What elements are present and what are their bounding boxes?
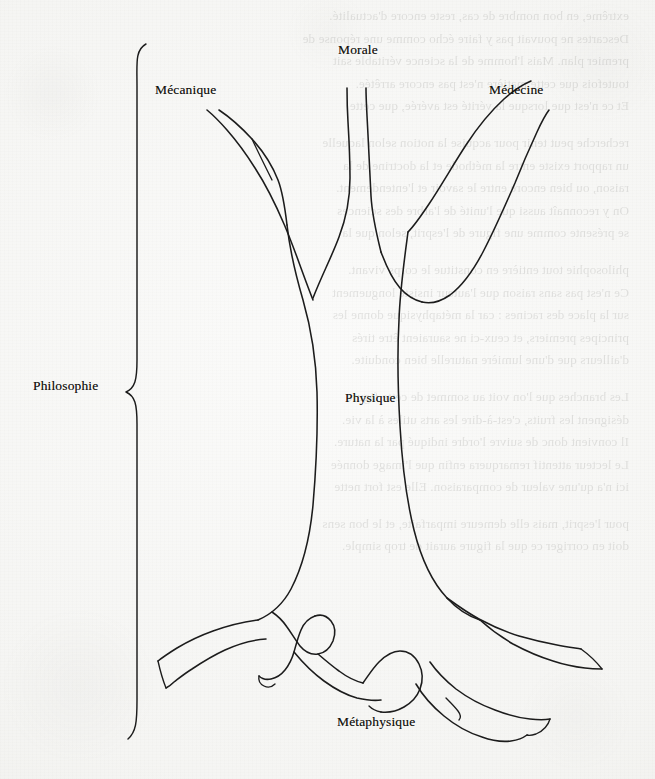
root-center-left-upper xyxy=(318,654,363,683)
medecine-branch-inner xyxy=(422,110,549,303)
trunk-left-outline xyxy=(258,225,317,620)
root-center-hump-right xyxy=(381,689,420,712)
root-left-mid-lower xyxy=(259,616,315,679)
root-right-mid-upper xyxy=(447,598,581,649)
root-left-mid-upper xyxy=(272,612,335,654)
label-medecine: Médecine xyxy=(489,82,543,98)
root-right-mid-lower xyxy=(480,620,602,669)
root-center-hump-tip xyxy=(369,706,381,712)
root-far-right-lower xyxy=(416,684,527,741)
root-right-mid-tip xyxy=(581,649,602,669)
label-metaphysique: Métaphysique xyxy=(337,714,415,730)
philosophie-brace xyxy=(126,44,146,739)
root-far-left-tip xyxy=(158,661,166,688)
root-label-stub xyxy=(446,698,460,720)
trunk-right-outline xyxy=(398,232,480,620)
label-morale: Morale xyxy=(338,42,378,58)
label-physique: Physique xyxy=(345,390,396,406)
root-center-hump-left xyxy=(363,651,422,689)
root-far-right-upper xyxy=(430,662,550,720)
root-far-right-tip xyxy=(527,719,550,735)
figure-page: extrême, en bon nombre de cas, reste enc… xyxy=(0,0,655,779)
label-philosophie: Philosophie xyxy=(33,378,98,394)
morale-branch-left-outline xyxy=(313,88,350,298)
left-fork-notch xyxy=(252,139,272,180)
morale-branch-right-outline xyxy=(366,88,381,252)
root-far-left-upper xyxy=(158,620,258,661)
morale-to-medecine-junction xyxy=(381,252,422,302)
mecanique-branch-outer xyxy=(207,110,313,300)
medecine-branch-outer xyxy=(408,81,531,232)
label-mecanique: Mécanique xyxy=(155,82,216,98)
